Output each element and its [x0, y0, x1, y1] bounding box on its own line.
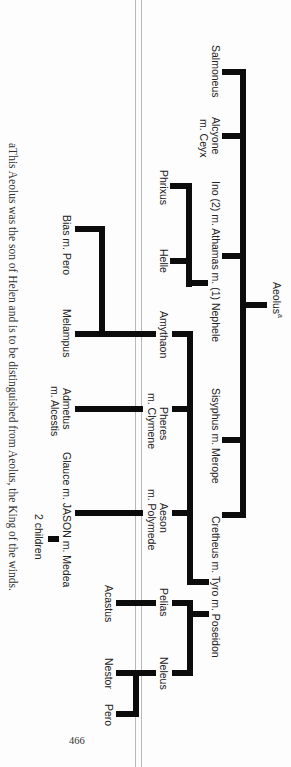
sisyphus-label: Sisyphus m. Merope	[210, 388, 222, 484]
phrixus-label: Phrixus	[158, 170, 170, 205]
sisyphus-stub	[222, 437, 242, 443]
pelias-stub	[172, 600, 190, 606]
aeolus-stub	[243, 302, 267, 308]
admetus-line	[75, 406, 143, 412]
footnote: aThis Aeolus was the son of Helen and is…	[7, 143, 19, 591]
cretheus-link	[189, 579, 209, 585]
jason-children-stub	[48, 536, 59, 542]
alcyone-stub	[222, 133, 242, 139]
jason-children-label: 2 children	[33, 514, 45, 560]
alcyone-label: Alcyone m. Ceyx	[198, 117, 222, 158]
neleus-stub	[172, 670, 192, 676]
pelias-label: Pelias	[158, 588, 170, 617]
poseidon-link	[189, 611, 209, 617]
acastus-label: Acastus	[103, 585, 115, 622]
phrixus-stub	[170, 183, 190, 189]
salmoneus-stub	[222, 69, 242, 75]
aeson-stub	[172, 510, 190, 516]
salmoneus-label: Salmoneus	[210, 45, 222, 98]
bias-stub	[75, 226, 103, 232]
jason-label: Glauce m. JASON m. Medea	[61, 452, 73, 587]
amythaon-descent	[99, 226, 105, 334]
admetus-label: Admetus m. Alcestis	[49, 386, 73, 436]
gutter-rule-right	[141, 0, 142, 767]
neleus-label: Neleus	[158, 657, 170, 690]
aeson-label: Aeson m. Polymede	[146, 489, 170, 550]
gutter-rule-left	[135, 0, 136, 767]
helle-stub	[170, 258, 190, 264]
nestor-label: Nestor	[103, 658, 115, 689]
cretheus-descent	[187, 331, 193, 585]
footnote-marker: a	[277, 314, 284, 318]
bias-label: Bias m. Pero	[61, 215, 73, 275]
cretheus-label: Cretheus m. Tyro m. Poseidon	[210, 516, 222, 658]
pero-label: Pero	[103, 704, 115, 726]
pheres-label: Pheres m. Clymene	[146, 393, 170, 449]
cretheus-stub	[222, 512, 246, 518]
helle-label: Helle	[158, 249, 170, 273]
amythaon-stub	[172, 331, 192, 337]
athamas-link	[188, 280, 208, 286]
amythaon-label: Amythaon	[158, 311, 170, 358]
page-number: 466	[69, 735, 85, 746]
athamas-descent	[186, 183, 192, 287]
pheres-stub	[172, 406, 190, 412]
amythaon-line	[75, 331, 156, 337]
jason-line	[75, 510, 143, 516]
melampus-label: Melampus	[61, 309, 73, 357]
aeolus-label: Aeolusa	[271, 282, 283, 318]
acastus-line	[116, 600, 156, 606]
athamas-stub	[222, 253, 242, 259]
pero-stub	[116, 711, 137, 717]
athamas-label: Ino (2) m. Athamas m. (1) Nephele	[210, 181, 222, 342]
